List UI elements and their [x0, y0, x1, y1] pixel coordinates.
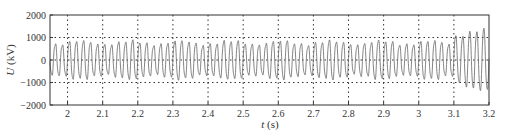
x-tick-label: 2.5: [237, 108, 250, 119]
y-tick-label: 1000: [26, 32, 46, 43]
grid-lines: [50, 15, 489, 105]
y-tick-label: −1000: [20, 77, 46, 88]
x-tick-label: 2: [65, 108, 70, 119]
x-tick-label: 2.7: [307, 108, 320, 119]
x-tick-label: 2.8: [342, 108, 355, 119]
x-tick-label: 3: [416, 108, 421, 119]
voltage-waveform: [50, 28, 489, 90]
x-tick-label: 2.9: [377, 108, 390, 119]
y-axis-ticks: 200010000−1000−2000: [20, 10, 53, 111]
x-tick-label: 2.3: [167, 108, 180, 119]
plot-frame: [50, 15, 489, 105]
y-axis-label: U (kV): [4, 44, 17, 76]
x-tick-label: 3.2: [483, 108, 496, 119]
x-tick-label: 2.4: [202, 108, 215, 119]
chart: 200010000−1000−2000 22.12.22.32.42.52.62…: [0, 0, 505, 138]
x-tick-label: 3.1: [448, 108, 461, 119]
y-tick-label: −2000: [20, 100, 46, 111]
x-axis-label: t (s): [261, 118, 279, 131]
y-tick-label: 0: [41, 55, 46, 66]
y-tick-label: 2000: [26, 10, 46, 21]
x-tick-label: 2.1: [96, 108, 109, 119]
x-tick-label: 2.2: [132, 108, 145, 119]
